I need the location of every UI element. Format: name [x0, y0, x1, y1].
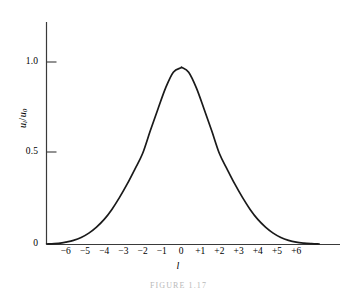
- x-axis-title: l: [0, 260, 357, 271]
- figure-container: 0 0.5 1.0 ul/u0 −6−5−4−3−2−10+1+2+3+4+5+…: [0, 0, 357, 288]
- y-tick-label-0: 0: [12, 238, 38, 248]
- plot-area: [0, 0, 357, 288]
- y-axis-title-denominator-subscript: 0: [21, 109, 29, 113]
- y-axis-title-slash: /: [17, 117, 28, 121]
- y-tick-label-1point0: 1.0: [12, 56, 38, 66]
- figure-caption: FIGURE 1.17: [0, 281, 357, 288]
- chart-plot: [0, 0, 357, 288]
- x-tick-label-6: +6: [285, 246, 307, 256]
- data-curve-series-0: [47, 67, 320, 244]
- y-axis-ticks: [47, 62, 57, 152]
- y-axis-title: ul/u0: [17, 88, 30, 148]
- y-axis-title-denominator: u: [17, 112, 28, 117]
- y-axis-title-numerator: u: [17, 123, 28, 128]
- x-axis-title-text: l: [177, 260, 180, 271]
